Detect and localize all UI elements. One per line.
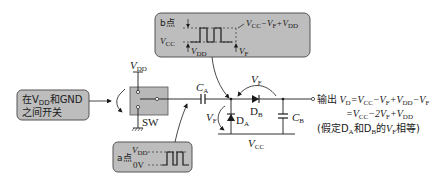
b-point-vcc-label: VCC [160,36,175,47]
vf-top-label: VF [251,74,262,85]
b-point-vdd-label: VDD [191,46,207,57]
b-point-vf-label: VF [239,46,248,57]
vf-left-label: VF [206,112,217,123]
b-point-top-level-label: VCC−VF+VDD [246,18,298,29]
output-assumption-note: (假定DA和DB的VF相等) [317,123,420,134]
a-point-high-label: VDD [132,145,148,156]
switch-callout-line1: 在VDD和GND [22,94,83,105]
diode-b-label: DB [250,106,263,117]
diode-a-label: DA [236,115,249,126]
diode-a-symbol [227,114,235,121]
output-equation-line1: 输出 VD=VCC−VF+VDD−VF [317,94,429,105]
b-point-title: b点 [160,18,175,29]
output-equation-line2: =VCC−2VF+VDD [346,108,413,119]
switch-vdd-label: VDD [130,60,147,71]
diode-b-symbol [252,95,259,103]
a-point-low-label: 0V [133,160,144,171]
switch-callout-line2: 之间开关 [22,107,62,118]
capacitor-b-label: CB [292,112,304,123]
vcc-rail-label: VCC [248,138,264,149]
b-point-pointer [212,57,229,98]
capacitor-a-label: CA [196,82,208,93]
switch-label: SW [142,117,159,128]
a-point-pointer [175,104,187,142]
switch-box [130,87,168,115]
circuit-schematic [0,0,434,184]
a-point-title: a点 [117,153,132,164]
charge-pump-diagram: 在VDD和GND 之间开关 VDD SW CA VF DB DA VF CB V… [0,0,434,184]
